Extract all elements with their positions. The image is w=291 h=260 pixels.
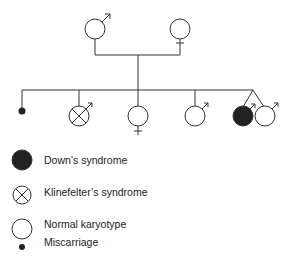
child-klinefelter-male — [69, 90, 92, 126]
child-female-normal — [128, 90, 148, 135]
male-sign-icon — [102, 14, 110, 22]
female-sign-icon — [176, 39, 184, 47]
male-sign-icon — [272, 103, 278, 109]
child-miscarriage — [19, 90, 26, 115]
mother-symbol — [170, 19, 190, 47]
legend-filled-circle-icon — [12, 150, 32, 170]
legend-label-miscarriage: Miscarriage — [44, 236, 98, 248]
father-symbol — [85, 14, 110, 39]
legend-open-circle-icon — [12, 219, 32, 239]
male-sign-icon — [202, 103, 208, 109]
child-male-normal-twin — [255, 103, 278, 126]
male-sign-icon — [250, 104, 255, 109]
male-sign-icon — [86, 103, 92, 109]
child-male-normal — [185, 90, 208, 126]
legend-label-down: Down’s syndrome — [44, 154, 127, 166]
child-down-male-twin — [233, 104, 255, 126]
legend-label-klinefelter: Klinefelter’s syndrome — [44, 186, 148, 198]
legend-dot-icon — [19, 244, 25, 250]
female-sign-icon — [134, 126, 142, 135]
legend-label-normal: Normal karyotype — [44, 218, 126, 230]
legend-crossed-circle-icon — [13, 186, 31, 204]
